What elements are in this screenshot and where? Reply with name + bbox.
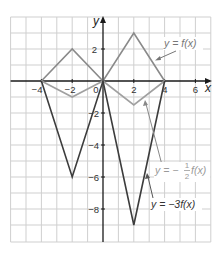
- xtick-2: 2: [131, 84, 136, 95]
- y-axis-label: y: [92, 14, 100, 28]
- ytick-m2: −2: [88, 108, 99, 119]
- ytick-2: 2: [92, 44, 97, 55]
- xtick-origin: 0: [93, 84, 98, 95]
- arrow-f: [158, 51, 176, 59]
- xtick-m4: −4: [32, 84, 43, 95]
- x-axis-label: x: [204, 81, 212, 95]
- label-half-prefix: y = −: [154, 164, 178, 176]
- xtick-6: 6: [193, 84, 198, 95]
- graph: x y −4 −2 0 2 4 6 2 −2 −4 −6 −8 y = f(x)…: [0, 0, 224, 254]
- label-half-den: 2: [185, 172, 190, 181]
- ytick-m6: −6: [88, 172, 99, 183]
- label-half-num: 1: [185, 161, 190, 170]
- label-f: y = f(x): [163, 37, 196, 49]
- ytick-m4: −4: [88, 140, 99, 151]
- label-neg-3f: y = −3f(x): [150, 198, 195, 210]
- arrow-half-head-icon: [143, 100, 148, 106]
- xtick-4: 4: [162, 84, 167, 95]
- label-half-suffix: f(x): [191, 164, 206, 176]
- xtick-m2: −2: [65, 84, 76, 95]
- ytick-m8: −8: [88, 204, 99, 215]
- arrow-f-head-icon: [155, 56, 161, 61]
